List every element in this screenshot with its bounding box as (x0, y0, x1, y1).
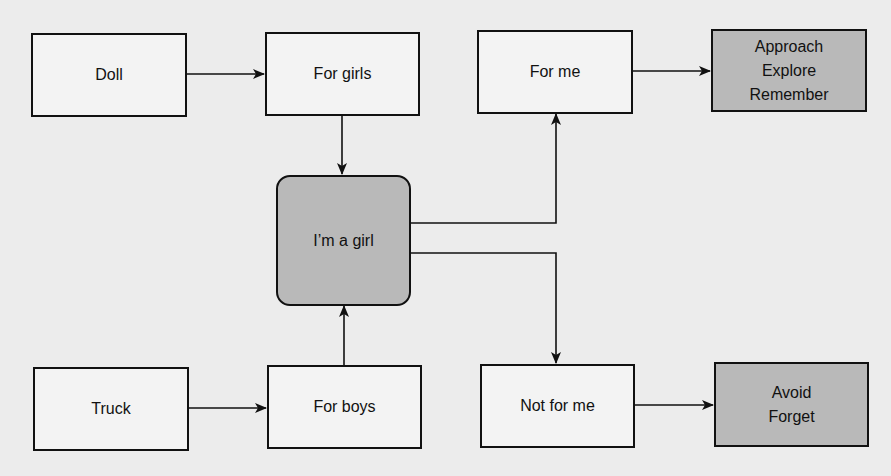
edge-im-a-girl-to-not-for-me (410, 253, 556, 363)
node-approach-line-2: Explore (762, 59, 816, 83)
node-truck: Truck (33, 367, 189, 451)
node-doll-label: Doll (95, 63, 123, 87)
node-approach-line-3: Remember (749, 83, 828, 107)
node-im-a-girl: I’m a girl (276, 175, 411, 306)
node-doll: Doll (31, 33, 187, 117)
node-avoid-line-2: Forget (768, 405, 814, 429)
node-not-for-me-label: Not for me (520, 394, 595, 418)
node-approach-line-1: Approach (755, 35, 824, 59)
node-avoid-forget: Avoid Forget (714, 362, 869, 447)
node-for-me-label: For me (530, 60, 581, 84)
node-for-me: For me (477, 30, 633, 114)
node-not-for-me: Not for me (480, 364, 635, 448)
node-for-girls: For girls (265, 32, 420, 116)
node-for-girls-label: For girls (314, 62, 372, 86)
node-truck-label: Truck (91, 397, 130, 421)
node-approach-explore-remember: Approach Explore Remember (711, 29, 867, 112)
node-for-boys: For boys (267, 365, 422, 449)
node-for-boys-label: For boys (313, 395, 375, 419)
edge-im-a-girl-to-for-me (410, 114, 556, 223)
node-im-a-girl-label: I’m a girl (313, 229, 373, 253)
node-avoid-line-1: Avoid (772, 381, 812, 405)
